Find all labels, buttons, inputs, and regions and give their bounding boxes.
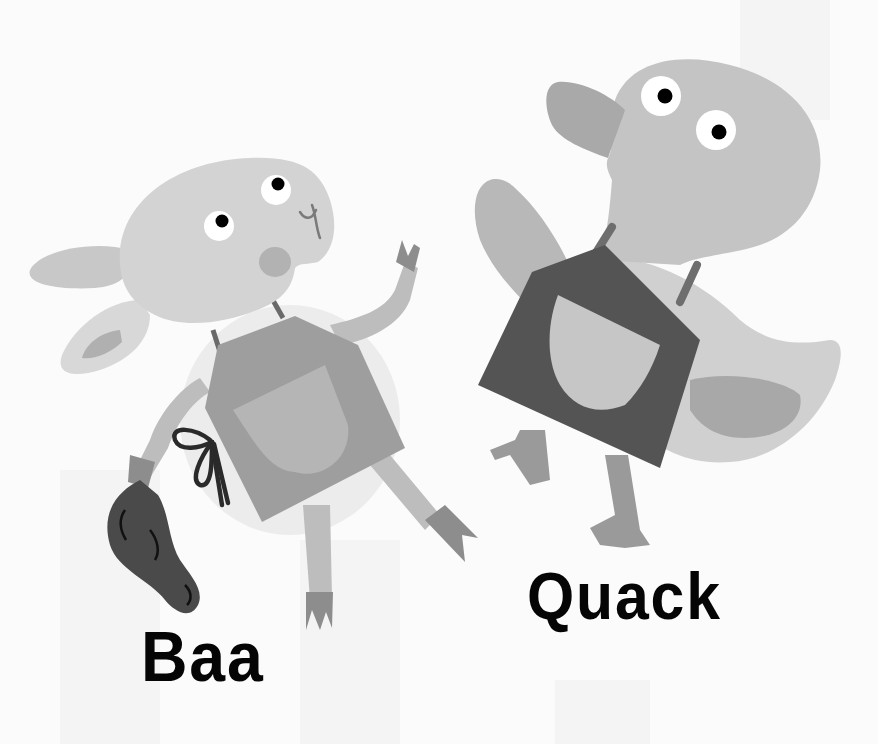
fish [107,480,199,613]
lamb [30,158,478,630]
duck-left-leg [490,430,550,485]
lamb-right-hoof [396,240,420,272]
lamb-eye-pupil [272,178,285,191]
duck [475,59,841,548]
lamb-left-leg [303,505,332,600]
duck-caption: Quack [527,563,722,629]
lamb-left-ear [30,246,131,288]
duck-eye-pupil [658,89,673,104]
duck-eye-pupil [712,125,727,140]
picture-book-page: Baa Quack [0,0,878,744]
lamb-right-arm [330,262,418,345]
lamb-eye-pupil [216,215,229,228]
lamb-cheek [259,247,291,277]
lamb-left-hoof-foot [306,592,333,630]
lamb-caption: Baa [141,622,265,692]
duck-right-leg [590,455,650,548]
lamb-head [120,158,335,323]
illustration [0,0,878,744]
duck-head [600,59,820,265]
